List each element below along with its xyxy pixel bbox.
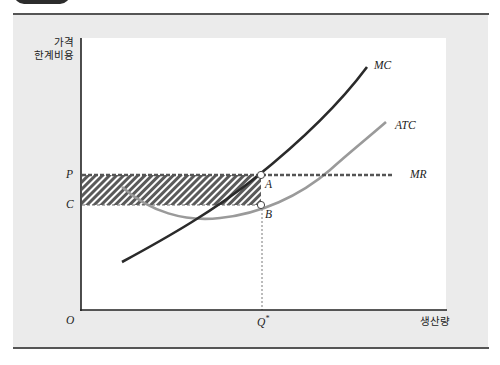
point-b-label: B	[265, 208, 272, 220]
y-axis-label: 가격 한계비용	[20, 36, 74, 62]
point-a	[257, 171, 264, 178]
mc-label: MC	[374, 59, 391, 71]
p-tick-label: P	[66, 168, 73, 180]
c-tick-label: C	[66, 198, 74, 210]
origin-label: O	[66, 314, 74, 326]
mr-label: MR	[410, 168, 427, 180]
chart-svg	[0, 0, 500, 365]
x-axis-label: 생산량	[420, 313, 450, 328]
qstar-sup: *	[265, 314, 269, 323]
point-b	[257, 201, 264, 208]
point-a-label: A	[265, 178, 272, 190]
atc-label: ATC	[395, 119, 416, 131]
profit-area	[82, 175, 261, 205]
qstar-tick-label: Q*	[257, 314, 269, 328]
y-axis-label-line1: 가격	[20, 36, 74, 49]
y-axis-label-line2: 한계비용	[20, 49, 74, 62]
